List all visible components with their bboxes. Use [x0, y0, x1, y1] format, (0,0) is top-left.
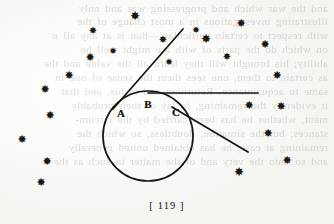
page-number: [ 119 ] [0, 200, 334, 211]
ink-speck-icon: ✸ [201, 33, 211, 45]
ink-speck-icon: ✸ [36, 177, 45, 188]
tangent-lines-group [113, 29, 258, 152]
point-label-c: C [172, 107, 180, 118]
ink-speck-icon: ✸ [64, 70, 73, 81]
ink-speck-icon: ✸ [159, 35, 167, 45]
ink-speck-icon: ✸ [244, 100, 253, 111]
ink-speck-icon: ✸ [40, 84, 49, 95]
ink-speck-icon: ✸ [236, 18, 245, 29]
ink-speck-icon: ✸ [130, 10, 140, 22]
ink-speck-icon: ✸ [165, 58, 173, 67]
ink-speck-icon: ✸ [85, 52, 94, 63]
point-label-b: B [144, 99, 151, 110]
ink-speck-icon: ✸ [17, 134, 26, 145]
ink-speck-icon: ✸ [89, 26, 97, 36]
ink-speck-icon: ✸ [276, 101, 285, 112]
line-lower-right-tangent [172, 107, 248, 152]
ink-speck-icon: ✸ [234, 166, 244, 178]
scanned-book-page: and the war which and progressing was an… [0, 0, 334, 224]
ink-speck-icon: ✸ [272, 70, 281, 81]
ink-speck-icon: ✸ [263, 128, 272, 139]
ink-speck-icon: ✸ [260, 39, 269, 50]
point-label-a: A [117, 108, 125, 119]
ink-speck-icon: ✸ [45, 110, 54, 121]
ink-speck-icon: ✸ [192, 26, 200, 35]
ink-speck-icon: ✸ [282, 155, 291, 166]
ink-speck-icon: ✸ [109, 47, 117, 56]
ink-speck-icon: ✸ [223, 52, 231, 62]
ink-speck-icon: ✸ [42, 156, 51, 167]
